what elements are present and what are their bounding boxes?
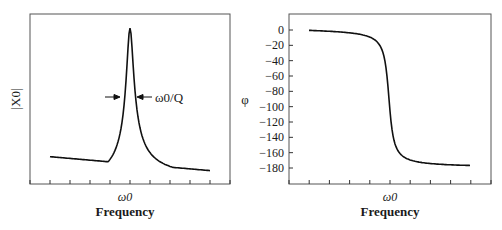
amplitude-chart: ω0/Q ω0 Frequency |X0| [8,14,230,219]
y-axis-label: φ [241,92,249,107]
plot-frame [30,14,230,184]
bandwidth-arrows [105,95,152,100]
chart-figure: ω0/Q ω0 Frequency |X0| 0−20−40−60−80−100… [0,0,502,230]
y-tick-label: −100 [259,100,284,114]
x-tick-label-omega0: ω0 [383,190,397,204]
y-axis-label: |X0| [8,88,23,109]
y-tick-label: −20 [265,38,284,52]
x-tick-label-omega0: ω0 [118,190,132,204]
y-tick-label: −140 [259,130,284,144]
y-axis-ticks: 0−20−40−60−80−100−120−140−160−180 [259,23,293,175]
x-axis-ticks [30,180,230,184]
y-tick-label: −160 [259,146,284,160]
x-axis-label: Frequency [361,204,420,219]
x-axis-ticks [289,180,491,184]
y-tick-label: −180 [259,161,284,175]
y-tick-label: −40 [265,54,284,68]
y-tick-label: 0 [278,23,284,37]
bandwidth-annotation: ω0/Q [155,90,184,105]
y-tick-label: −80 [265,84,284,98]
phase-chart: 0−20−40−60−80−100−120−140−160−180 ω0 Fre… [241,14,491,219]
y-tick-label: −60 [265,69,284,83]
x-axis-label: Frequency [96,204,155,219]
amplitude-curve [50,28,210,170]
y-tick-label: −120 [259,115,284,129]
phase-curve [309,30,470,165]
plot-frame [289,14,491,184]
